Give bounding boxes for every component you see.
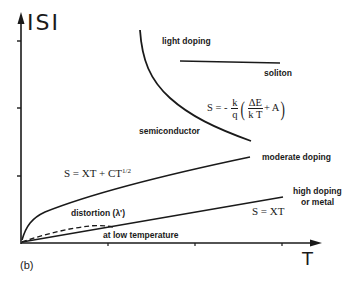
semiconductor-label: semiconductor [139,127,200,136]
close-paren: ) [281,98,285,120]
equation-exponent: 1/2 [122,167,131,175]
fraction-denominator: q [231,109,238,120]
k-over-q: k q [231,97,238,120]
metal-equation: S = XT [252,206,284,217]
soliton-label: soliton [264,69,292,78]
fraction-denominator: k T [248,109,263,120]
y-axis-arrow-icon [18,12,25,24]
low-temperature-label: at low temperature [103,231,179,240]
seebeck-vs-temperature-diagram: ISI T (b) light doping soliton semicondu… [0,0,355,281]
dE-over-kT: ΔE k T [248,97,263,120]
y-axis-label: ISI [27,12,60,34]
x-axis-label: T [302,250,313,268]
plus-a: + A [264,102,280,113]
equation-main: S = XT + CT [64,167,122,179]
moderate-doping-label: moderate doping [262,153,331,162]
y-axis [17,12,25,244]
open-paren: ( [241,98,245,120]
distortion-label: distortion (λ') [71,209,125,218]
fraction-numerator: ΔE [248,97,263,109]
x-axis-arrow-icon [310,240,322,247]
semiconductor-equation: S = - k q ( ΔE k T + A) [207,97,287,120]
moderate-doping-curve [22,157,250,240]
soliton-line [180,61,280,63]
metal-label: or metal [301,198,334,207]
high-doping-label: high doping [293,187,342,196]
equation-lhs: S = - [207,102,228,113]
semiconductor-curve [140,30,251,141]
fraction-numerator: k [231,97,238,109]
light-doping-label: light doping [162,37,211,46]
x-axis [21,240,322,247]
panel-label: (b) [20,260,33,271]
moderate-doping-equation: S = XT + CT1/2 [64,168,131,179]
